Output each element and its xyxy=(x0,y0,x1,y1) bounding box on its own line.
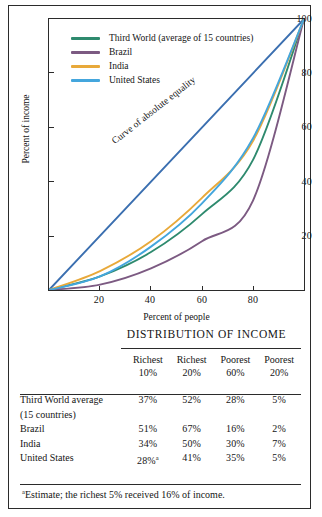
legend-swatch-india xyxy=(71,65,100,68)
x-tick-label-80: 80 xyxy=(238,295,268,305)
table-header-poorest-60: Poorest 60% xyxy=(214,354,258,379)
table-cell: 67% xyxy=(170,422,214,437)
legend-swatch-united-states xyxy=(71,79,100,82)
chart-legend: Third World (average of 15 countries) Br… xyxy=(71,31,291,87)
table-header-line1: Richest xyxy=(126,354,170,367)
table-row-label-third-world: Third World average (15 countries) xyxy=(20,393,126,422)
table-cell: 37% xyxy=(126,393,170,422)
table-header-blank xyxy=(20,354,126,379)
table-rule-top xyxy=(121,348,301,349)
table-header-richest-10: Richest 10% xyxy=(126,354,170,379)
legend-item-india: India xyxy=(71,59,291,73)
table-header-richest-20: Richest 20% xyxy=(170,354,214,379)
table-header-line2: 20% xyxy=(170,367,214,380)
table-row: Brazil 51% 67% 16% 2% xyxy=(20,422,301,437)
table-cell: 16% xyxy=(214,422,258,437)
table-cell: 7% xyxy=(257,437,301,452)
table-row: United States 28%a 41% 35% 5% xyxy=(20,451,301,469)
lorenz-curve-chart: Percent of income 100 80 60 40 20 20 40 … xyxy=(9,6,312,324)
table-header-spacer xyxy=(214,379,258,393)
legend-label-india: India xyxy=(109,61,129,72)
table-cell: 5% xyxy=(257,451,301,469)
x-tick-label-20: 20 xyxy=(84,295,114,305)
legend-swatch-third-world xyxy=(71,37,100,40)
table-rule-bottom xyxy=(20,484,301,485)
table-cell: 35% xyxy=(214,451,258,469)
table-header-line2: 60% xyxy=(214,367,258,380)
table-header-row: Richest 10% Richest 20% Poorest 60% Poor… xyxy=(20,354,301,379)
table: Richest 10% Richest 20% Poorest 60% Poor… xyxy=(20,354,301,469)
table-row-label-brazil: Brazil xyxy=(20,422,126,437)
figure-panel: Percent of income 100 80 60 40 20 20 40 … xyxy=(8,5,311,509)
legend-label-united-states: United States xyxy=(109,75,160,86)
table-header: Richest 10% Richest 20% Poorest 60% Poor… xyxy=(20,354,301,393)
legend-label-brazil: Brazil xyxy=(109,47,132,58)
footnote-text: Estimate; the richest 5% received 16% of… xyxy=(25,489,225,500)
table-cell: 30% xyxy=(214,437,258,452)
table-body: Third World average (15 countries) 37% 5… xyxy=(20,393,301,469)
x-tick-label-60: 60 xyxy=(187,295,217,305)
table-cell: 51% xyxy=(126,422,170,437)
table-header-line1: Poorest xyxy=(257,354,301,367)
table-row-label-united-states: United States xyxy=(20,451,126,469)
table-header-line1: Poorest xyxy=(214,354,258,367)
table-cell-value: 28% xyxy=(137,455,156,466)
table-cell: 50% xyxy=(170,437,214,452)
table-cell: 5% xyxy=(257,393,301,422)
table-header-spacer xyxy=(20,379,126,393)
table-cell: 41% xyxy=(170,451,214,469)
table-row-label-line1: Third World average xyxy=(20,393,126,408)
distribution-of-income-table: DISTRIBUTION OF INCOME Richest 10% Riche… xyxy=(9,328,312,340)
table-row: Third World average (15 countries) 37% 5… xyxy=(20,393,301,422)
legend-label-third-world: Third World (average of 15 countries) xyxy=(109,33,253,44)
legend-item-third-world: Third World (average of 15 countries) xyxy=(71,31,291,45)
table-header-line2: 20% xyxy=(257,367,301,380)
table-header-line2: 10% xyxy=(126,367,170,380)
table-header-line1: Richest xyxy=(170,354,214,367)
table-header-spacer-row xyxy=(20,379,301,393)
table-cell-with-footnote: 28%a xyxy=(126,451,170,469)
x-tick-label-40: 40 xyxy=(135,295,165,305)
table-row-label-line2: (15 countries) xyxy=(20,408,126,423)
table-row: India 34% 50% 30% 7% xyxy=(20,437,301,452)
table-cell: 34% xyxy=(126,437,170,452)
table-cell: 2% xyxy=(257,422,301,437)
table-header-spacer xyxy=(126,379,170,393)
table-row-label-india: India xyxy=(20,437,126,452)
y-axis-label: Percent of income xyxy=(21,84,31,174)
table-cell: 52% xyxy=(170,393,214,422)
table-cell: 28% xyxy=(214,393,258,422)
table-footnote: aEstimate; the richest 5% received 16% o… xyxy=(22,488,225,500)
footnote-marker-superscript: a xyxy=(156,454,159,461)
table-title: DISTRIBUTION OF INCOME xyxy=(9,328,312,340)
legend-item-brazil: Brazil xyxy=(71,45,291,59)
legend-swatch-brazil xyxy=(71,51,100,54)
table-header-spacer xyxy=(257,379,301,393)
table-header-spacer xyxy=(170,379,214,393)
table-header-poorest-20: Poorest 20% xyxy=(257,354,301,379)
x-axis-label: Percent of people xyxy=(48,312,305,322)
